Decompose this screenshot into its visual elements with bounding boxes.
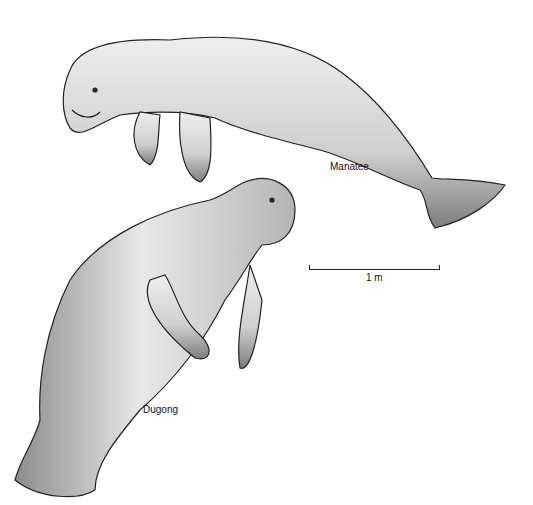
scale-bar — [309, 263, 440, 271]
dugong-drawing — [15, 179, 295, 497]
scale-bar-tick-left — [309, 265, 310, 270]
manatee-label: Manatee — [330, 161, 369, 172]
dugong-label: Dugong — [143, 404, 178, 415]
scale-bar-tick-right — [439, 265, 440, 270]
scale-bar-label: 1 m — [366, 272, 383, 283]
sirenian-illustration — [0, 0, 533, 505]
scale-bar-line — [309, 269, 440, 270]
